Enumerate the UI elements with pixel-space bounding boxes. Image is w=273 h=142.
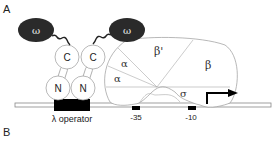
n-label-left: N xyxy=(54,83,61,94)
dna-strand xyxy=(15,103,271,107)
rnap-outline xyxy=(105,37,238,107)
tether-right xyxy=(93,34,111,44)
alpha-label-lower: α xyxy=(114,73,121,84)
rna-polymerase: α α β' β σ xyxy=(105,37,238,107)
alpha-label-upper: α xyxy=(121,58,128,69)
panel-label-a: A xyxy=(3,3,11,15)
sigma-label: σ xyxy=(180,88,187,99)
omega-label-right: ω xyxy=(123,25,131,36)
panel-label-b: B xyxy=(3,126,10,138)
minus10-box xyxy=(188,106,196,110)
lambda-operator-box xyxy=(54,99,90,111)
minus35-label: -35 xyxy=(130,113,142,122)
n-label-right: N xyxy=(79,83,86,94)
beta-label: β xyxy=(205,59,211,72)
beta-prime-label: β' xyxy=(154,45,163,58)
c-label-right: C xyxy=(89,52,96,63)
transcription-activation-diagram: A α α β' β σ N N C C xyxy=(0,0,273,142)
tether-left xyxy=(52,35,70,45)
omega-label-left: ω xyxy=(32,25,40,36)
c-label-left: C xyxy=(63,52,70,63)
minus10-label: -10 xyxy=(185,113,197,122)
minus35-box xyxy=(132,106,140,110)
lambda-operator-label: λ operator xyxy=(52,114,93,124)
